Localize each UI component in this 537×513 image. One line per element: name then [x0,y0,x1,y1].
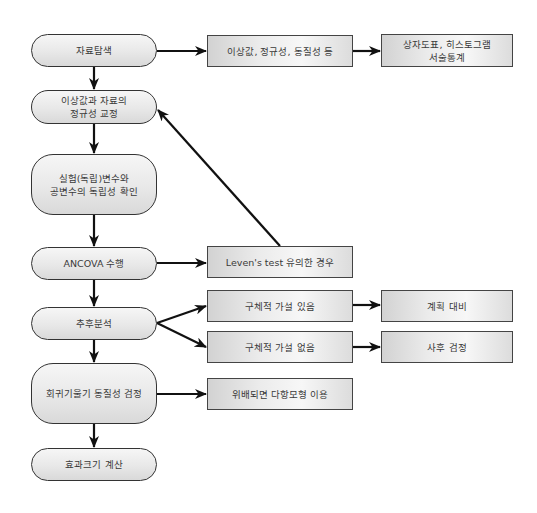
node-label: 추후분석 [76,317,112,330]
box-specific-hypothesis: 구체적 가설 있음 [207,290,353,322]
node-label: 실험(독립)변수와 공변수의 독립성 확인 [50,172,137,198]
node-outlier-normality-correction: 이상값과 자료의 정규성 교정 [31,90,157,124]
box-post-hoc-test: 사후 검정 [381,331,513,363]
box-label: 구체적 가설 있음 [245,300,314,313]
box-boxplot-histogram: 상자도표, 히스토그램 서술통계 [381,34,513,67]
ancova-flowchart: 자료탐색 이상값과 자료의 정규성 교정 실험(독립)변수와 공변수의 독립성 … [0,0,537,513]
box-label: 구체적 가설 없음 [245,341,314,354]
node-data-exploration: 자료탐색 [31,34,157,67]
node-label: 회귀기울기 동질성 검정 [46,387,142,400]
box-outlier-normality-homogeneity: 이상값, 정규성, 동질성 등 [207,35,353,67]
box-label: 위배되면 다항모형 이용 [232,388,328,401]
node-label: 자료탐색 [76,44,112,57]
node-follow-up-analysis: 추후분석 [31,307,157,340]
arrow-n5-b4 [157,306,206,323]
node-slope-homogeneity-test: 회귀기울기 동질성 검정 [31,363,157,424]
node-label: 효과크기 계산 [65,458,122,471]
box-levene-significant: Leven's test 유의한 경우 [207,246,353,278]
box-label: 이상값, 정규성, 동질성 등 [227,45,332,58]
box-label: 계획 대비 [427,300,466,313]
box-polynomial-model: 위배되면 다항모형 이용 [207,378,353,410]
arrow-b3-n2 [158,110,280,246]
node-effect-size: 효과크기 계산 [31,448,157,481]
node-label: ANCOVA 수행 [64,257,125,270]
node-label: 이상값과 자료의 정규성 교정 [61,94,127,120]
box-label: 사후 검정 [427,341,466,354]
node-perform-ancova: ANCOVA 수행 [31,247,157,280]
node-independence-check: 실험(독립)변수와 공변수의 독립성 확인 [31,154,157,215]
box-label: 상자도표, 히스토그램 서술통계 [403,38,490,64]
box-planned-contrast: 계획 대비 [381,290,513,322]
box-no-specific-hypothesis: 구체적 가설 없음 [207,331,353,363]
arrow-n5-b6 [157,323,206,347]
box-label: Leven's test 유의한 경우 [226,256,334,269]
